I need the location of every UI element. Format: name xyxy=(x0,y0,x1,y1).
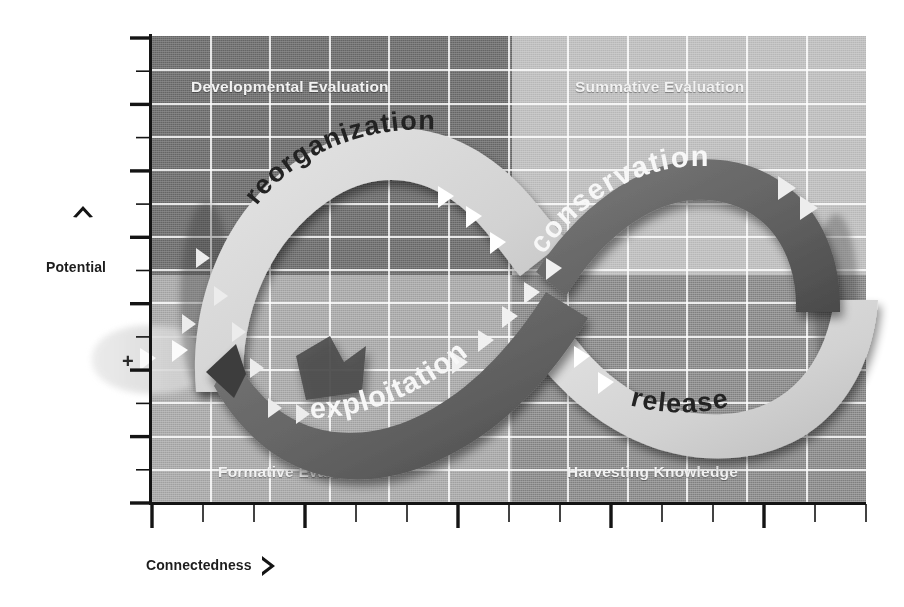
x-axis-ticks xyxy=(152,504,866,528)
axes xyxy=(0,0,904,607)
y-axis-ticks xyxy=(130,38,150,503)
adaptive-cycle-figure: Potential Connectedness Developmental Ev… xyxy=(0,0,904,607)
